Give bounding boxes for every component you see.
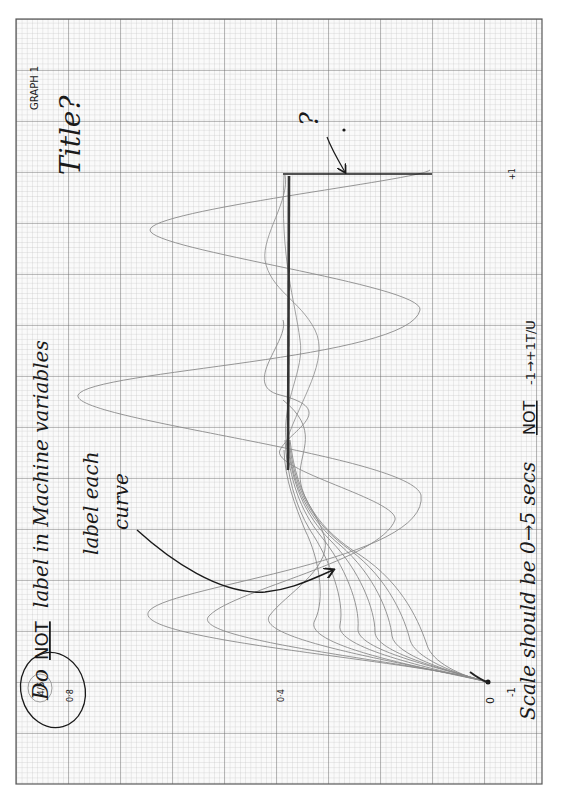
machine-note-not: NOT bbox=[31, 620, 52, 660]
curve-note-line1: label each bbox=[79, 451, 103, 555]
x-tick-plus1: +1 bbox=[508, 168, 517, 180]
machine-note-prefix: Do bbox=[28, 669, 53, 701]
graph-sheet: ? 4/5 GRAPH 1 Title? Do NOT label in Mac… bbox=[0, 0, 561, 798]
title-note: Title? bbox=[54, 95, 87, 175]
y-tick-08: 0·8 bbox=[66, 689, 75, 702]
machine-note-rest: label in Machine variables bbox=[29, 340, 53, 608]
curve-note-line2: curve bbox=[109, 473, 133, 530]
y-tick-0: 0 bbox=[484, 697, 497, 704]
x-tick-minus1: -1 bbox=[506, 687, 517, 697]
machine-variables-note: Do NOT label in Machine variables bbox=[28, 340, 53, 701]
scale-note-rest: -1→+1T/U bbox=[523, 320, 538, 385]
y-tick-04: 0·4 bbox=[277, 689, 286, 702]
scale-note-not: NOT bbox=[520, 400, 539, 435]
grid bbox=[16, 19, 542, 784]
question-mark-note: ? bbox=[294, 111, 324, 126]
corner-label: GRAPH 1 bbox=[29, 66, 40, 110]
scale-note-prefix: Scale should be 0→5 secs bbox=[516, 462, 540, 720]
